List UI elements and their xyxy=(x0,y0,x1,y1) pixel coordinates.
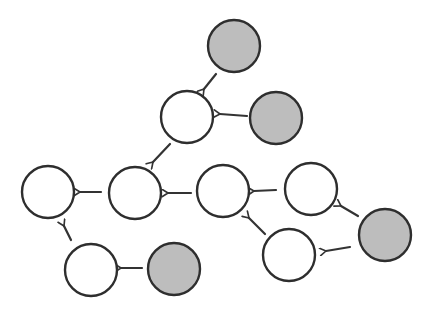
arrow-n8-to-n7 xyxy=(341,206,358,216)
white-node-circle xyxy=(65,244,117,296)
shaded-node-circle xyxy=(208,20,260,72)
node-layer xyxy=(22,20,411,296)
white-node-circle xyxy=(197,165,249,217)
arrow-n2-to-n5 xyxy=(153,144,170,162)
arrow-n9-to-n6 xyxy=(249,218,265,234)
shaded-node-circle xyxy=(359,209,411,261)
shaded-node-circle xyxy=(250,92,302,144)
white-node-circle xyxy=(22,166,74,218)
arrow-n1-to-n2 xyxy=(204,74,216,89)
arrow-n8-to-n9 xyxy=(326,247,350,251)
shaded-node-circle xyxy=(148,243,200,295)
arrow-n7-to-n6 xyxy=(254,190,276,191)
arrow-n3-to-n2 xyxy=(220,114,247,116)
arrow-n10-to-n4 xyxy=(64,226,71,240)
dependency-graph-diagram xyxy=(0,0,433,314)
white-node-circle xyxy=(161,91,213,143)
white-node-circle xyxy=(109,167,161,219)
white-node-circle xyxy=(263,229,315,281)
white-node-circle xyxy=(285,163,337,215)
